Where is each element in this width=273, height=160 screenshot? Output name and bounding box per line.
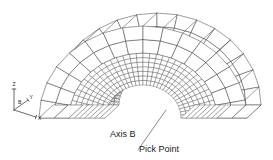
triad-origin-label: B xyxy=(18,99,22,105)
fine-mesh-cell xyxy=(139,76,143,81)
coordinate-triad: ZYXB xyxy=(12,81,42,121)
fine-mesh-cell xyxy=(138,71,143,76)
fine-mesh-cell xyxy=(134,76,139,81)
triad-label-x: X xyxy=(38,115,42,121)
coarse-mesh-cell xyxy=(244,87,261,105)
finite-element-mesh xyxy=(39,13,261,118)
fine-mesh-cell xyxy=(143,62,149,67)
annotation-pick-point: Pick Point xyxy=(139,144,180,154)
coarse-mesh-cell xyxy=(137,13,157,28)
fine-mesh-cell xyxy=(143,76,147,81)
coarse-mesh-cell xyxy=(126,40,143,55)
fine-mesh-cell xyxy=(135,81,139,86)
mesh-end-caps xyxy=(39,105,261,118)
fine-mesh-cell xyxy=(137,62,143,67)
fine-mesh-cell xyxy=(143,67,148,72)
coarse-mesh-cell xyxy=(123,26,143,41)
fine-mesh-cell xyxy=(133,71,138,76)
fine-mesh-cell xyxy=(132,67,138,72)
coarse-mesh-cell xyxy=(157,13,177,28)
mesh-figure: ZYXB Axis B Pick Point xyxy=(0,0,273,160)
triad-axis-x xyxy=(14,110,36,117)
fine-mesh-cell xyxy=(143,71,148,76)
fine-mesh-cell xyxy=(139,80,143,85)
fine-mesh-cell xyxy=(137,58,143,63)
fine-mesh-cell xyxy=(143,80,147,85)
fine-mesh-cell xyxy=(143,58,149,63)
fine-mesh-cell xyxy=(138,67,143,72)
annotation-axis-b: Axis B xyxy=(110,129,136,139)
coarse-mesh-cell xyxy=(143,26,163,41)
diagram-canvas: ZYXB Axis B Pick Point xyxy=(0,0,273,160)
triad-label-y: Y xyxy=(30,94,34,100)
triad-label-z: Z xyxy=(13,81,16,87)
